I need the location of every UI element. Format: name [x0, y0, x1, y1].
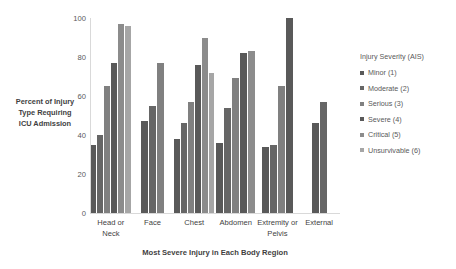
plot-area: 020406080100 Head or NeckFaceChestAbdome…: [90, 18, 340, 213]
y-tick-label: 20: [78, 170, 86, 179]
legend-label: Serious (3): [368, 99, 403, 108]
bar-chart: Percent of Injury Type Requiring ICU Adm…: [0, 0, 456, 269]
legend-item: Critical (5): [360, 130, 456, 139]
bar: [232, 78, 239, 213]
y-axis-title-line-1: Percent of Injury: [6, 96, 84, 107]
bar-groups: [90, 18, 340, 213]
y-axis-title-line-3: ICU Admission: [6, 118, 84, 129]
bar: [188, 102, 194, 213]
bar: [202, 38, 208, 214]
x-axis-line: [90, 213, 340, 214]
legend-swatch-icon: [360, 148, 364, 152]
bar: [312, 123, 319, 213]
x-tick-label: Extremity orPelvis: [257, 215, 299, 239]
x-tick-label: Face: [132, 215, 174, 239]
x-tick-label: Head or Neck: [90, 215, 132, 239]
bar: [224, 108, 231, 213]
x-tick-label: Abdomen: [215, 215, 257, 239]
bar: [248, 51, 255, 213]
legend-swatch-icon: [360, 117, 364, 121]
bar: [209, 73, 215, 213]
bar: [240, 53, 247, 213]
bar: [181, 123, 187, 213]
legend-item: Minor (1): [360, 68, 456, 77]
legend-title: Injury Severity (AIS): [360, 52, 456, 61]
x-axis-title: Most Severe Injury in Each Body Region: [90, 248, 340, 257]
bar: [149, 106, 156, 213]
bar-group: [173, 18, 215, 213]
y-tick-label: 80: [78, 53, 86, 62]
y-axis-title: Percent of Injury Type Requiring ICU Adm…: [6, 96, 84, 129]
legend-label: Moderate (2): [368, 84, 409, 93]
bar: [125, 26, 131, 213]
legend-item: Moderate (2): [360, 84, 456, 93]
bar: [157, 63, 164, 213]
legend-item: Serious (3): [360, 99, 456, 108]
y-tick-label: 100: [73, 14, 86, 23]
bar: [111, 63, 117, 213]
y-tick-label: 40: [78, 131, 86, 140]
bar: [104, 86, 110, 213]
y-tick-label: 0: [82, 209, 86, 218]
bar: [91, 145, 97, 213]
legend-item: Unsurvivable (6): [360, 146, 456, 155]
bar-group: [257, 18, 299, 213]
legend-label: Severe (4): [368, 115, 402, 124]
bar: [320, 102, 327, 213]
bar-group: [215, 18, 257, 213]
bar: [270, 145, 277, 213]
y-tick-label: 60: [78, 92, 86, 101]
bar-group: [132, 18, 174, 213]
legend-swatch-icon: [360, 133, 364, 137]
x-tick-label: External: [298, 215, 340, 239]
bar: [97, 135, 103, 213]
legend-item: Severe (4): [360, 115, 456, 124]
legend-items: Minor (1)Moderate (2)Serious (3)Severe (…: [360, 68, 456, 155]
bar-group: [90, 18, 132, 213]
x-axis-labels: Head or NeckFaceChestAbdomenExtremity or…: [90, 215, 340, 239]
legend-label: Unsurvivable (6): [368, 146, 420, 155]
legend-swatch-icon: [360, 102, 364, 106]
bar: [174, 139, 180, 213]
bar-group: [298, 18, 340, 213]
legend-swatch-icon: [360, 71, 364, 75]
bar: [262, 147, 269, 213]
legend: Injury Severity (AIS) Minor (1)Moderate …: [360, 52, 456, 161]
bar: [278, 86, 285, 213]
x-tick-label: Chest: [173, 215, 215, 239]
bar: [118, 24, 124, 213]
bar: [216, 143, 223, 213]
bar: [286, 18, 293, 213]
legend-label: Minor (1): [368, 68, 397, 77]
legend-swatch-icon: [360, 86, 364, 90]
bar: [195, 65, 201, 213]
y-axis-title-line-2: Type Requiring: [6, 107, 84, 118]
bar: [141, 121, 148, 213]
legend-label: Critical (5): [368, 130, 401, 139]
